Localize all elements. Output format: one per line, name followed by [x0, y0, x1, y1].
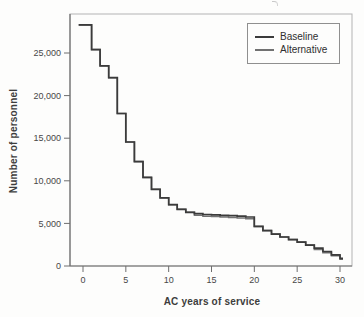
y-tick-label: 10,000	[33, 176, 61, 186]
x-tick-label: 30	[335, 275, 345, 285]
y-tick-label: 5,000	[38, 219, 61, 229]
x-axis-title: AC years of service	[164, 296, 261, 307]
y-axis-title: Number of personnel	[8, 89, 19, 193]
x-tick-label: 15	[206, 275, 216, 285]
legend-item-alternative: Alternative	[255, 45, 339, 55]
legend: Baseline Alternative	[247, 23, 340, 64]
x-tick-label: 5	[123, 275, 128, 285]
x-tick-label: 25	[292, 275, 302, 285]
x-tick-label: 20	[249, 275, 259, 285]
figure-step-chart: 05,00010,00015,00020,00025,0000510152025…	[0, 0, 364, 317]
x-tick-label: 0	[80, 275, 85, 285]
y-tick-label: 20,000	[33, 91, 61, 101]
legend-item-baseline: Baseline	[255, 32, 339, 42]
alternative-line-swatch	[255, 49, 274, 51]
legend-label-baseline: Baseline	[280, 32, 318, 42]
y-tick-label: 0	[56, 261, 61, 271]
y-tick-label: 15,000	[33, 133, 61, 143]
baseline-line-swatch	[255, 36, 274, 38]
legend-label-alternative: Alternative	[280, 45, 327, 55]
x-tick-label: 10	[164, 275, 174, 285]
y-tick-label: 25,000	[33, 48, 61, 58]
